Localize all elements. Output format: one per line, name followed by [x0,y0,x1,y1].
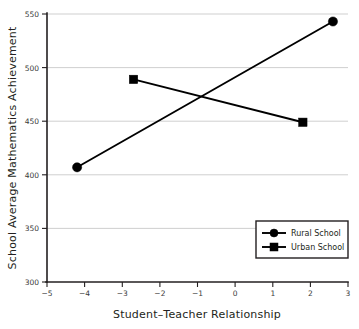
y-tick-label-550: 550 [25,10,40,19]
legend-label-rural: Rural School [291,229,341,238]
x-tick-label-0: 0 [233,289,238,298]
y-tick-label-300: 300 [25,278,40,287]
legend-marker-circle-rural [270,229,278,237]
chart-figure: 550 500 450 400 350 300 −5 −4 −3 −2 −1 0… [0,0,359,329]
y-tick-label-400: 400 [25,171,40,180]
x-tick-label-neg1: −1 [192,289,203,298]
line-chart: 550 500 450 400 350 300 −5 −4 −3 −2 −1 0… [0,0,359,329]
data-point-square [129,75,137,83]
y-tick-label-500: 500 [25,64,40,73]
data-point-square [299,118,307,126]
y-tick-label-450: 450 [25,117,40,126]
y-axis-title: School Average Mathematics Achievement [6,26,19,269]
x-tick-label-neg5: −5 [41,289,52,298]
x-tick-label-neg3: −3 [117,289,128,298]
x-tick-label-neg4: −4 [79,289,90,298]
x-tick-label-3: 3 [346,289,351,298]
data-point-circle [73,163,82,172]
chart-legend: Rural School Urban School [256,221,348,258]
x-axis-title: Student–Teacher Relationship [113,308,281,321]
legend-box [256,221,348,258]
data-point-circle [328,17,337,26]
legend-marker-square-urban [270,243,278,251]
legend-label-urban: Urban School [291,243,344,252]
x-tick-label-1: 1 [270,289,275,298]
y-tick-label-350: 350 [25,224,40,233]
x-tick-label-2: 2 [308,289,313,298]
x-tick-label-neg2: −2 [154,289,165,298]
